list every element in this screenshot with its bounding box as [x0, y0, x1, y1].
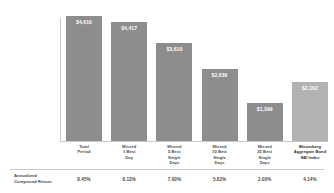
category-label-missed-1-best-day: Missed 1 Best Day [111, 144, 147, 168]
bar-slot-missed-10-best-days: $2,639 [202, 4, 238, 141]
bar-value-label: $2,162 [292, 85, 328, 91]
annualized-return-missed-10-best-days: 5.82% [202, 177, 238, 182]
annualized-return-missed-5-best-days: 7.00% [156, 177, 192, 182]
bar-slot-bloomberg-aggregate-bond-index: $2,162 [292, 4, 328, 141]
bar-slot-total-period: $4,610 [66, 4, 102, 141]
category-label-line: Day [111, 155, 147, 160]
footer-divider [10, 169, 324, 170]
annualized-return-row-label: Annualized Compound Return [14, 173, 66, 184]
category-label-line: Period [66, 149, 102, 154]
bar-slot-missed-1-best-day: $4,417 [111, 4, 147, 141]
annualized-return-values: 8.45% 8.13% 7.00% 5.82% 2.00% 4.14% [66, 177, 328, 182]
category-label-line: Days [156, 160, 192, 165]
bar-total-period[interactable]: $4,610 [66, 16, 102, 141]
category-label-missed-25-best-days: Missed 25 Best Single Days [247, 144, 283, 168]
bar-missed-5-best-days[interactable]: $3,610 [156, 43, 192, 141]
y-axis-line [60, 18, 61, 141]
bar-value-label: $4,417 [111, 25, 147, 31]
bar-missed-1-best-day[interactable]: $4,417 [111, 22, 147, 141]
x-axis-line [60, 141, 328, 142]
bar-value-label: $3,610 [156, 46, 192, 52]
bar-series: $4,610 $4,417 $3,610 $2,639 [66, 4, 328, 141]
annualized-return-row: Annualized Compound Return 8.45% 8.13% 7… [0, 173, 334, 191]
bar-value-label: $2,639 [202, 72, 238, 78]
bar-missed-10-best-days[interactable]: $2,639 [202, 69, 238, 141]
bar-bloomberg-aggregate-bond-index[interactable]: $2,162 [292, 82, 328, 141]
category-label-missed-5-best-days: Missed 5 Best Single Days [156, 144, 192, 168]
growth-of-1000-bar-chart: Growth of $1,000 $4,610 $4,417 $3,610 [0, 0, 334, 193]
category-label-line: Days [202, 160, 238, 165]
annualized-return-bloomberg-aggregate-bond-index: 4.14% [292, 177, 328, 182]
bar-slot-missed-25-best-days: $1,399 [247, 4, 283, 141]
bar-missed-25-best-days[interactable]: $1,399 [247, 103, 283, 141]
x-axis-category-labels: Total Period Missed 1 Best Day Missed 5 … [66, 144, 328, 168]
bar-slot-missed-5-best-days: $3,610 [156, 4, 192, 141]
plot-area: Growth of $1,000 $4,610 $4,417 $3,610 [60, 4, 328, 141]
bar-value-label: $4,610 [66, 19, 102, 25]
category-label-total-period: Total Period [66, 144, 102, 168]
category-label-line: SBI Index [292, 155, 328, 160]
annualized-return-missed-25-best-days: 2.00% [247, 177, 283, 182]
annualized-return-missed-1-best-day: 8.13% [111, 177, 147, 182]
bar-value-label: $1,399 [247, 106, 283, 112]
annualized-return-label-line: Compound Return [14, 179, 66, 185]
category-label-line: Days [247, 160, 283, 165]
category-label-missed-10-best-days: Missed 10 Best Single Days [202, 144, 238, 168]
annualized-return-total-period: 8.45% [66, 177, 102, 182]
category-label-bloomberg-aggregate-bond-index: Bloomberg Aggregate Bond SBI Index [292, 144, 328, 168]
